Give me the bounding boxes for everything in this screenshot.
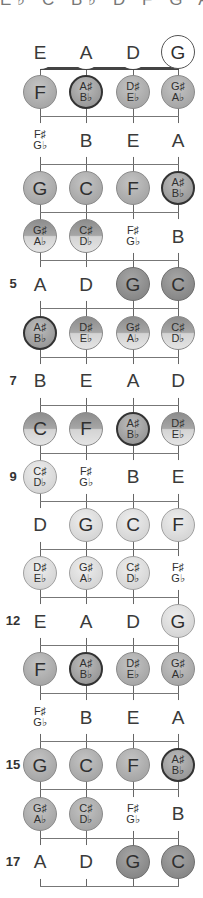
note-label: A xyxy=(80,43,93,62)
note-label-enharmonic: E♭ xyxy=(127,669,139,680)
note-label-enharmonic: B♭ xyxy=(127,429,139,440)
note-label-enharmonic: A♭ xyxy=(80,573,92,584)
note-label-enharmonic: A♭ xyxy=(127,333,139,344)
note-label: A xyxy=(34,275,47,294)
note-cell: E xyxy=(116,123,150,157)
note-label-enharmonic: B♭ xyxy=(34,333,46,344)
note-label: B xyxy=(127,467,140,486)
note-cell: E xyxy=(69,364,103,398)
note-cell: G♯A♭ xyxy=(23,797,57,831)
note-cell: C♯D♭ xyxy=(69,797,103,831)
fret-number-17: 17 xyxy=(4,854,22,869)
note-cell: G xyxy=(69,508,103,542)
note-cell: C xyxy=(23,412,57,446)
note-label: E xyxy=(80,371,93,390)
note-cell: F♯G♭ xyxy=(23,123,57,157)
note-cell: F xyxy=(23,75,57,109)
note-label: F♯ xyxy=(127,803,139,814)
note-label: A xyxy=(34,852,47,871)
note-cell: F♯G♭ xyxy=(161,556,195,590)
note-cell: C xyxy=(116,508,150,542)
note-label-enharmonic: B♭ xyxy=(80,92,92,103)
note-label: E xyxy=(172,467,185,486)
note-cell: G xyxy=(116,845,150,879)
note-label-enharmonic: G♭ xyxy=(171,573,185,584)
note-label: D xyxy=(33,515,47,534)
note-cell: A♯B♭ xyxy=(161,171,195,205)
open-string-g: G xyxy=(161,35,195,69)
note-cell: F♯G♭ xyxy=(116,219,150,253)
note-label: C xyxy=(33,419,47,438)
note-cell: D xyxy=(69,267,103,301)
fret-line xyxy=(40,501,179,502)
note-label: D xyxy=(126,612,140,631)
note-cell: B xyxy=(161,219,195,253)
note-label-enharmonic: G♭ xyxy=(79,477,93,488)
note-label-enharmonic: D♭ xyxy=(127,573,140,584)
fret-number-7: 7 xyxy=(4,373,22,388)
note-cell: F xyxy=(116,748,150,782)
note-label: G♯ xyxy=(126,322,140,333)
note-label: E xyxy=(127,708,140,727)
note-label: E xyxy=(34,43,47,62)
fret-line xyxy=(40,549,179,550)
note-cell: F♯G♭ xyxy=(69,460,103,494)
note-label-enharmonic: G♭ xyxy=(126,236,140,247)
fret-line xyxy=(40,886,179,887)
note-label-enharmonic: D♭ xyxy=(172,333,185,344)
note-label: F xyxy=(127,179,139,198)
fret-number-12: 12 xyxy=(4,613,22,628)
note-label: D xyxy=(79,275,93,294)
fret-line xyxy=(40,164,179,165)
note-cell: D xyxy=(23,508,57,542)
note-cell: C♯D♭ xyxy=(161,316,195,350)
note-label: B xyxy=(34,371,47,390)
note-cell: G xyxy=(116,267,150,301)
note-label-enharmonic: A♭ xyxy=(172,92,184,103)
note-cell: D♯E♭ xyxy=(116,75,150,109)
note-cell: F♯G♭ xyxy=(116,797,150,831)
note-label-enharmonic: G♭ xyxy=(126,814,140,825)
fret-number-15: 15 xyxy=(4,757,22,772)
fret-line xyxy=(40,405,179,406)
note-label: C xyxy=(171,275,185,294)
note-label: G♯ xyxy=(33,803,47,814)
note-label: C xyxy=(79,756,93,775)
note-label: C xyxy=(126,515,140,534)
note-cell: C♯D♭ xyxy=(116,556,150,590)
note-cell: A xyxy=(161,123,195,157)
note-label: F xyxy=(172,515,184,534)
note-cell: A♯B♭ xyxy=(116,412,150,446)
note-cell: F xyxy=(23,652,57,686)
note-cell: B xyxy=(69,700,103,734)
note-cell: F♯G♭ xyxy=(23,700,57,734)
note-label: C♯ xyxy=(171,322,184,333)
note-cell: G xyxy=(161,604,195,638)
note-cell: C♯D♭ xyxy=(69,219,103,253)
open-string-e: E xyxy=(23,35,57,69)
note-cell: G♯A♭ xyxy=(116,316,150,350)
note-label: F xyxy=(34,83,46,102)
fret-line xyxy=(40,597,179,598)
note-label: A xyxy=(80,612,93,631)
note-label-enharmonic: E♭ xyxy=(172,429,184,440)
bass-fretboard-diagram: EADGFA♯B♭D♯E♭G♯A♭F♯G♭BEAGCFA♯B♭G♯A♭C♯D♭F… xyxy=(0,0,203,898)
note-label-enharmonic: B♭ xyxy=(80,669,92,680)
note-label: F xyxy=(80,419,92,438)
note-cell: A xyxy=(23,845,57,879)
note-label-enharmonic: G♭ xyxy=(33,717,47,728)
note-label: G xyxy=(79,515,94,534)
note-cell: B xyxy=(69,123,103,157)
note-label-enharmonic: B♭ xyxy=(172,188,184,199)
note-cell: G xyxy=(23,748,57,782)
note-label: C♯ xyxy=(79,803,92,814)
nut xyxy=(40,67,179,70)
note-cell: A♯B♭ xyxy=(23,316,57,350)
fret-line xyxy=(40,308,179,309)
note-label: E xyxy=(34,612,47,631)
note-label: A xyxy=(127,371,140,390)
fret-number-9: 9 xyxy=(4,469,22,484)
note-cell: B xyxy=(116,460,150,494)
fret-line xyxy=(40,357,179,358)
note-cell: G♯A♭ xyxy=(161,652,195,686)
